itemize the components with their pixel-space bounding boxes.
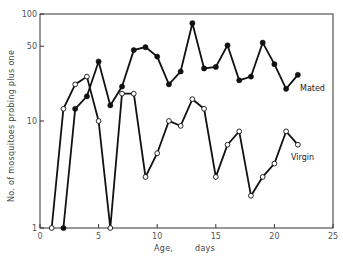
data-point [248, 74, 253, 79]
data-point [49, 226, 54, 231]
data-point [73, 82, 78, 87]
data-point [201, 66, 206, 71]
data-point [272, 161, 277, 166]
data-point [108, 103, 113, 108]
data-point [131, 91, 136, 96]
data-point [178, 123, 183, 128]
y-axis: 11050100 [22, 10, 44, 233]
series-layer [49, 21, 300, 231]
data-point [260, 175, 265, 180]
x-tick-label: 25 [328, 232, 338, 241]
data-point [119, 84, 124, 89]
data-point [73, 106, 78, 111]
y-axis-title: No. of mosquitoes probing plus one [7, 50, 16, 202]
data-point [190, 97, 195, 102]
data-point [166, 82, 171, 87]
x-axis-title-age: Age, [154, 244, 173, 253]
data-point [143, 175, 148, 180]
data-point [295, 142, 300, 147]
data-point [260, 40, 265, 45]
data-point [272, 62, 277, 67]
y-tick-label: 100 [22, 10, 37, 19]
data-point [295, 72, 300, 77]
x-axis: 0510152025 [37, 224, 338, 241]
data-point [96, 59, 101, 64]
data-point [190, 21, 195, 26]
data-point [284, 86, 289, 91]
data-point [155, 151, 160, 156]
x-tick-label: 10 [152, 232, 162, 241]
series-label-mated: Mated [300, 84, 325, 93]
line-chart: 11050100 0510152025 Mated Virgin Age, da… [0, 0, 343, 261]
data-point [225, 142, 230, 147]
data-point [213, 64, 218, 69]
data-point [108, 226, 113, 231]
data-point [120, 91, 125, 96]
data-point [61, 106, 66, 111]
data-point [237, 78, 242, 83]
data-point [284, 129, 289, 134]
y-tick-label: 50 [27, 42, 37, 51]
x-tick-label: 15 [211, 232, 221, 241]
data-point [61, 225, 66, 230]
data-point [167, 119, 172, 124]
x-axis-title-days: days [195, 244, 215, 253]
data-point [249, 193, 254, 198]
data-point [225, 43, 230, 48]
x-tick-label: 5 [96, 232, 101, 241]
data-point [237, 129, 242, 134]
data-point [213, 175, 218, 180]
data-point [96, 119, 101, 124]
series-label-virgin: Virgin [291, 153, 314, 162]
x-tick-label: 0 [37, 232, 42, 241]
y-tick-label: 1 [32, 224, 37, 233]
y-tick-label: 10 [27, 117, 37, 126]
data-point [143, 45, 148, 50]
data-point [155, 54, 160, 59]
data-point [202, 106, 207, 111]
data-point [178, 69, 183, 74]
data-point [131, 47, 136, 52]
x-tick-label: 20 [269, 232, 279, 241]
data-point [84, 74, 89, 79]
data-point [84, 94, 89, 99]
